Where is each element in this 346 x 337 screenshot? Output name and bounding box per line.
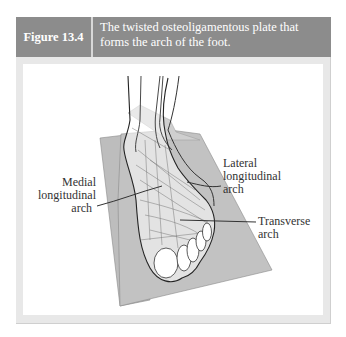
label-lateral-longitudinal-arch: Lateral longitudinal arch	[223, 157, 281, 196]
label-transverse-arch: Transverse arch	[258, 215, 310, 241]
label-lateral-line3: arch	[223, 183, 281, 196]
label-medial-line3: arch	[38, 202, 96, 215]
foot-arch-illustration	[0, 0, 346, 337]
label-transverse-line2: arch	[258, 228, 310, 241]
label-medial-longitudinal-arch: Medial longitudinal arch	[38, 176, 96, 215]
